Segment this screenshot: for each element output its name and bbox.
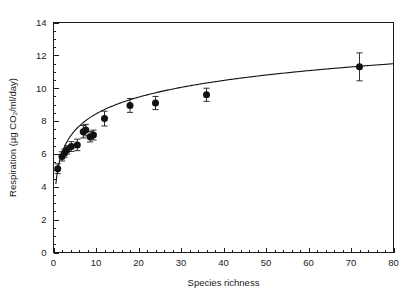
error-bars — [55, 53, 363, 174]
y-tick-label: 2 — [41, 214, 46, 225]
y-axis-tick-labels: 02468101214 — [36, 17, 47, 258]
data-point — [90, 132, 97, 139]
x-tick-label: 10 — [91, 257, 102, 268]
y-tick-label: 8 — [41, 115, 46, 126]
plot-frame — [54, 23, 394, 253]
data-point — [68, 143, 75, 150]
data-point — [101, 115, 108, 122]
x-tick-label: 20 — [133, 257, 144, 268]
fit-curve — [56, 64, 394, 184]
data-point — [203, 91, 210, 98]
respiration-species-richness-chart: 01020304050607080 02468101214 Species ri… — [0, 0, 414, 302]
x-tick-label: 40 — [218, 257, 229, 268]
x-tick-label: 60 — [303, 257, 314, 268]
data-point — [356, 63, 363, 70]
y-tick-label: 4 — [41, 181, 46, 192]
x-axis-ticks — [55, 248, 395, 253]
y-tick-label: 6 — [41, 148, 46, 159]
x-tick-label: 50 — [261, 257, 272, 268]
y-tick-label: 0 — [41, 247, 46, 258]
y-axis-title: Respiration (µg CO₂/ml/day) — [7, 78, 18, 197]
data-point — [127, 102, 134, 109]
x-axis-tick-labels: 01020304050607080 — [51, 257, 399, 268]
data-point — [74, 141, 81, 148]
y-axis-ticks — [54, 24, 59, 254]
x-tick-label: 80 — [388, 257, 399, 268]
chart-canvas: 01020304050607080 02468101214 Species ri… — [0, 0, 414, 302]
x-tick-label: 30 — [176, 257, 187, 268]
y-tick-label: 12 — [36, 50, 47, 61]
y-tick-label: 10 — [36, 83, 47, 94]
y-tick-label: 14 — [36, 17, 47, 28]
data-point — [152, 100, 159, 107]
data-points — [54, 63, 363, 172]
x-axis-title: Species richness — [188, 277, 260, 288]
data-point — [82, 127, 89, 134]
x-tick-label: 70 — [346, 257, 357, 268]
x-tick-label: 0 — [51, 257, 56, 268]
data-point — [54, 165, 61, 172]
